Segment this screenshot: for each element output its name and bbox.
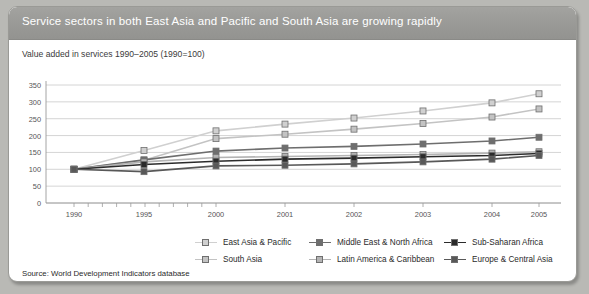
legend-line-icon [195,242,217,243]
legend-row-1: East Asia & Pacific Middle East & North … [9,235,576,250]
legend-marker-icon [202,256,209,263]
source-note: Source: World Development Indicators dat… [22,269,190,278]
x-axis-tick-label: 1990 [66,210,82,217]
x-axis-tick-label: 1995 [136,210,152,217]
x-axis-tick-label: 2005 [531,210,547,217]
figure-subtitle: Value added in services 1990–2005 (1990=… [22,49,205,59]
x-axis-tick-label: 2002 [346,210,362,217]
legend-label: Europe & Central Asia [472,255,553,264]
y-axis-tick-label: 50 [33,182,41,191]
figure-title-bar: Service sectors in both East Asia and Pa… [9,7,576,40]
line-chart: 0501001502002503003501990199520002001200… [9,67,576,217]
legend-marker-icon [451,239,458,246]
figure-title: Service sectors in both East Asia and Pa… [22,15,442,27]
x-axis-tick-label: 2001 [277,210,293,217]
legend-item-south-asia[interactable]: South Asia [195,252,262,267]
legend-marker-icon [316,256,323,263]
y-axis-tick-label: 0 [37,199,41,208]
legend-line-icon [444,259,466,260]
legend-item-latin-america-caribbean[interactable]: Latin America & Caribbean [309,252,434,267]
y-axis-tick-label: 200 [29,132,41,141]
y-axis-tick-label: 300 [29,98,41,107]
plot-area: 0501001502002503003501990199520002001200… [9,67,576,217]
legend-marker-icon [451,256,458,263]
legend-label: Sub-Saharan Africa [472,238,543,247]
y-axis-tick-label: 350 [29,81,41,90]
chart-figure-panel: Service sectors in both East Asia and Pa… [8,6,577,282]
legend-label: Latin America & Caribbean [337,255,434,264]
legend-label: Middle East & North Africa [337,238,433,247]
legend-line-icon [444,242,466,243]
legend-marker-icon [202,239,209,246]
y-axis-tick-label: 150 [29,148,41,157]
x-axis-tick-label: 2004 [484,210,500,217]
legend-line-icon [309,259,331,260]
x-axis-tick-label: 2000 [208,210,224,217]
legend-line-icon [309,242,331,243]
legend-marker-icon [316,239,323,246]
legend-item-europe-central-asia[interactable]: Europe & Central Asia [444,252,553,267]
legend-item-east-asia-pacific[interactable]: East Asia & Pacific [195,235,291,250]
y-axis-tick-label: 250 [29,115,41,124]
legend-row-2: South Asia Latin America & Caribbean Eur… [9,252,576,267]
chart-legend: East Asia & Pacific Middle East & North … [9,235,576,269]
legend-line-icon [195,259,217,260]
legend-label: South Asia [223,255,262,264]
legend-label: East Asia & Pacific [223,238,291,247]
x-axis-tick-label: 2003 [415,210,431,217]
legend-item-sub-saharan-africa[interactable]: Sub-Saharan Africa [444,235,543,250]
y-axis-tick-label: 100 [29,165,41,174]
legend-item-middle-east-north-africa[interactable]: Middle East & North Africa [309,235,433,250]
